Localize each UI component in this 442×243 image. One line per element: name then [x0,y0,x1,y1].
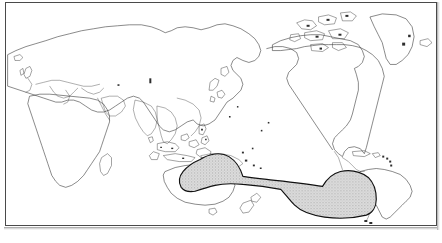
map-frame [5,2,437,226]
scan-shadow-right [437,2,440,230]
world-map [6,3,436,225]
scan-page [0,0,442,243]
figure-root [0,0,442,243]
scan-shadow-bottom [4,227,438,230]
